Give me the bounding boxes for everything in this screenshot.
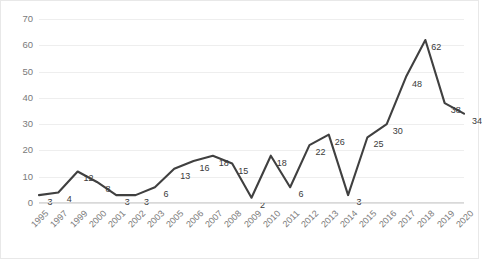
- gridline-0: 0: [39, 203, 464, 204]
- x-tick-label: 2000: [88, 209, 109, 230]
- x-tick-label: 2001: [107, 209, 128, 230]
- x-tick-label: 2017: [397, 209, 418, 230]
- x-tick-label: 2016: [378, 209, 399, 230]
- x-tick-label: 2007: [204, 209, 225, 230]
- y-tick-label: 0: [28, 198, 33, 208]
- x-tick-label: 2006: [184, 209, 205, 230]
- data-label: 34: [472, 116, 482, 125]
- data-label: 25: [373, 140, 383, 149]
- data-label: 22: [315, 148, 325, 157]
- x-tick-label: 2010: [262, 209, 283, 230]
- y-tick-label: 60: [22, 41, 33, 51]
- y-tick-label: 70: [22, 14, 33, 24]
- x-tick-label: 2013: [320, 209, 341, 230]
- x-tick-label: 2020: [455, 209, 476, 230]
- x-tick-label: 2008: [223, 209, 244, 230]
- data-label: 6: [299, 190, 304, 199]
- x-tick-label: 2002: [126, 209, 147, 230]
- data-label: 6: [163, 190, 168, 199]
- y-tick-label: 20: [22, 146, 33, 156]
- y-tick-label: 50: [22, 67, 33, 77]
- x-tick-label: 2019: [436, 209, 457, 230]
- data-label: 15: [238, 166, 248, 175]
- x-tick-label: 1999: [68, 209, 89, 230]
- plot-area: 010203040506070 341283361316181521862226…: [39, 19, 464, 203]
- data-label: 13: [180, 171, 190, 180]
- y-tick-label: 10: [22, 172, 33, 182]
- y-tick-label: 30: [22, 119, 33, 129]
- y-tick-label: 40: [22, 93, 33, 103]
- x-axis-line: [39, 202, 464, 203]
- data-label: 62: [431, 43, 441, 52]
- data-label: 30: [393, 127, 403, 136]
- data-label: 18: [277, 158, 287, 167]
- x-tick-label: 2018: [416, 209, 437, 230]
- data-label: 16: [200, 163, 210, 172]
- data-label: 12: [84, 174, 94, 183]
- data-label: 18: [219, 158, 229, 167]
- x-tick-label: 2003: [146, 209, 167, 230]
- series-polyline: [39, 40, 464, 198]
- data-label: 48: [412, 79, 422, 88]
- x-tick-label: 1997: [49, 209, 70, 230]
- x-tick-label: 2009: [242, 209, 263, 230]
- x-tick-label: 2015: [358, 209, 379, 230]
- data-label: 8: [105, 184, 110, 193]
- x-tick-label: 2011: [281, 209, 301, 229]
- x-tick-label: 1995: [30, 209, 51, 230]
- line-series: [39, 19, 464, 203]
- x-tick-label: 2012: [300, 209, 321, 230]
- x-tick-label: 2005: [165, 209, 186, 230]
- data-label: 38: [451, 106, 461, 115]
- data-label: 26: [335, 137, 345, 146]
- x-tick-label: 2014: [339, 209, 360, 230]
